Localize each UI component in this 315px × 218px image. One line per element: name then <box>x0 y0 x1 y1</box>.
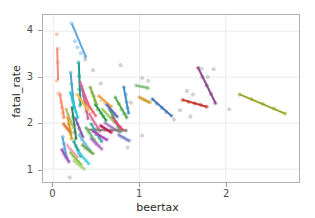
scatter-canvas <box>43 15 299 182</box>
y-axis-ticks <box>36 14 42 183</box>
y-tick-label: 4 <box>27 25 33 35</box>
chart-root: 1234 012 beertax fatal_rate <box>0 0 315 218</box>
x-tick-label: 0 <box>49 189 55 199</box>
y-tick-mark <box>38 77 42 78</box>
y-tick-mark <box>38 30 42 31</box>
x-axis-label: beertax <box>0 201 315 214</box>
y-tick-label: 2 <box>27 118 33 128</box>
x-tick-mark <box>139 183 140 187</box>
y-tick-mark <box>38 123 42 124</box>
x-tick-label: 1 <box>136 189 142 199</box>
y-tick-label: 1 <box>27 165 33 175</box>
x-tick-mark <box>52 183 53 187</box>
plot-panel <box>42 14 300 183</box>
y-tick-mark <box>38 170 42 171</box>
y-tick-label: 3 <box>27 72 33 82</box>
x-tick-label: 2 <box>223 189 229 199</box>
regression-lines <box>57 24 285 170</box>
y-axis-label: fatal_rate <box>10 32 23 152</box>
x-tick-mark <box>226 183 227 187</box>
